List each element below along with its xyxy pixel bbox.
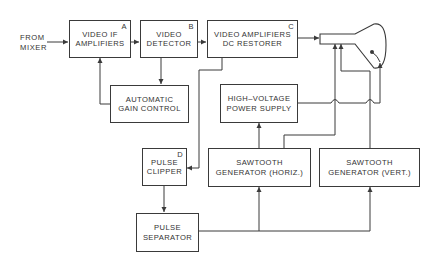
block-video-amplifiers: C VIDEO AMPLIFIERS DC RESTORER [207,20,298,58]
block-tag: D [177,150,183,160]
label-line: MIXER [20,43,47,53]
block-video-detector: B VIDEO DETECTOR [140,20,198,58]
block-label: HIGH–VOLTAGE [228,94,291,104]
block-pulse-clipper: D PULSE CLIPPER [142,148,187,186]
block-label: PULSE [154,223,181,233]
block-label: SAWTOOTH [236,158,283,168]
block-label: DETECTOR [147,39,192,49]
block-label: PULSE [151,158,178,168]
block-video-if-amplifiers: A VIDEO IF AMPLIFIERS [69,20,131,58]
block-pulse-separator: PULSE SEPARATOR [136,213,199,252]
block-label: CLIPPER [147,167,182,177]
crt-tube [320,24,386,68]
block-sawtooth-horiz: SAWTOOTH GENERATOR (HORIZ.) [208,148,311,187]
block-sawtooth-vert: SAWTOOTH GENERATOR (VERT.) [319,148,420,187]
block-label: GENERATOR (HORIZ.) [216,168,304,178]
block-label: AUTOMATIC [126,95,174,105]
block-tag: B [189,22,194,32]
block-label: GAIN CONTROL [118,104,181,114]
block-label: GENERATOR (VERT.) [328,168,411,178]
block-label: VIDEO [156,30,182,40]
block-label: AMPLIFIERS [75,39,124,49]
block-tag: C [288,22,294,32]
block-label: POWER SUPPLY [226,104,291,114]
block-label: VIDEO AMPLIFIERS [214,30,291,40]
block-label: DC RESTORER [223,39,283,49]
block-high-voltage-supply: HIGH–VOLTAGE POWER SUPPLY [220,84,298,123]
from-mixer-label: FROM MIXER [20,33,47,52]
block-label: SEPARATOR [143,233,192,243]
block-label: SAWTOOTH [346,158,393,168]
block-tag: A [122,22,127,32]
block-automatic-gain-control: AUTOMATIC GAIN CONTROL [110,85,189,123]
block-label: VIDEO IF [82,30,118,40]
label-line: FROM [20,33,47,43]
